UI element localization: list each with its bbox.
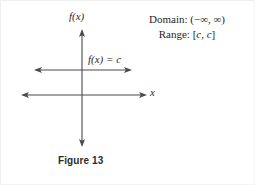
x-axis-label: x [150, 87, 155, 98]
constant-function-label: f(x) = c [88, 54, 121, 65]
domain-text: Domain: (−∞, ∞) [128, 12, 246, 27]
figure-13-container: f(x) x f(x) = c Domain: (−∞, ∞) Range: [… [0, 0, 255, 185]
figure-caption: Figure 13 [58, 155, 103, 166]
y-axis-label: f(x) [69, 11, 84, 22]
range-text: Range: [c, c] [128, 27, 246, 42]
domain-range-annotation: Domain: (−∞, ∞) Range: [c, c] [128, 12, 246, 42]
